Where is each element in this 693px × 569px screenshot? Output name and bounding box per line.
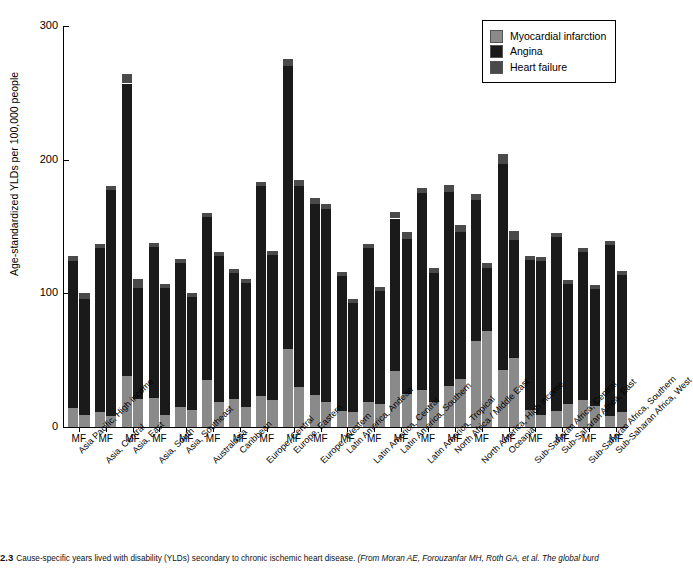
y-axis-label: Age-standardized YLDs per 100,000 people <box>8 76 20 276</box>
x-tick-mark <box>213 427 214 432</box>
bar-segment-angina <box>267 255 277 401</box>
bar-segment-angina <box>175 263 185 407</box>
bar-segment-angina <box>337 276 347 411</box>
x-tick-label-mf: MF <box>144 434 174 444</box>
bar-segment-heart-failure <box>605 241 615 245</box>
x-tick-mark <box>106 427 107 432</box>
x-axis-line <box>63 427 628 428</box>
bar-male <box>417 188 427 427</box>
bar-segment-heart-failure <box>390 212 400 219</box>
bar-segment-angina <box>187 297 197 409</box>
bar-segment-heart-failure <box>106 186 116 190</box>
bar-segment-heart-failure <box>617 271 627 275</box>
y-tick-label: 300 <box>18 20 58 31</box>
bar-group <box>337 26 359 427</box>
bar-segment-angina <box>375 291 385 405</box>
bar-segment-angina <box>348 303 358 413</box>
bar-female <box>106 186 116 427</box>
bar-segment-myocardial-infarction <box>68 408 78 427</box>
bar-group <box>417 26 439 427</box>
bar-group <box>578 26 600 427</box>
x-tick-mark <box>428 427 429 432</box>
bar-male <box>363 244 373 427</box>
y-tick-label: 100 <box>18 287 58 298</box>
x-tick-label-mf: MF <box>91 434 121 444</box>
x-tick-mark <box>186 427 187 432</box>
x-tick-mark <box>509 427 510 432</box>
x-tick-mark <box>401 427 402 432</box>
bar-segment-heart-failure <box>79 293 89 298</box>
bar-segment-heart-failure <box>563 280 573 284</box>
bar-segment-myocardial-infarction <box>536 415 546 427</box>
bar-segment-heart-failure <box>321 204 331 209</box>
x-tick-mark <box>482 427 483 432</box>
bar-segment-angina <box>482 268 492 331</box>
bar-segment-heart-failure <box>310 198 320 203</box>
bar-segment-heart-failure <box>256 182 266 186</box>
x-tick-mark <box>267 427 268 432</box>
figure-caption: 2.3Cause-specific years lived with disab… <box>0 552 660 564</box>
x-tick-label-mf: MF <box>359 434 389 444</box>
bar-segment-angina <box>160 288 170 415</box>
bar-segment-heart-failure <box>68 256 78 261</box>
bar-segment-angina <box>590 289 600 405</box>
bar-female <box>160 284 170 427</box>
bar-male <box>444 185 454 427</box>
y-tick-label: 200 <box>18 154 58 165</box>
bar-segment-heart-failure <box>160 284 170 288</box>
x-tick-mark <box>589 427 590 432</box>
bar-segment-angina <box>578 252 588 400</box>
bar-group <box>390 26 412 427</box>
bar-segment-heart-failure <box>214 252 224 256</box>
bar-segment-heart-failure <box>471 194 481 199</box>
x-tick-label-mf: MF <box>198 434 228 444</box>
x-tick-mark <box>347 427 348 432</box>
bar-segment-heart-failure <box>348 299 358 303</box>
x-tick-mark <box>535 427 536 432</box>
bar-segment-angina <box>229 273 239 399</box>
bar-segment-heart-failure <box>551 233 561 237</box>
bar-segment-heart-failure <box>122 74 132 83</box>
bar-segment-heart-failure <box>241 279 251 283</box>
bar-segment-angina <box>241 283 251 407</box>
bar-male <box>95 244 105 427</box>
bar-segment-heart-failure <box>267 251 277 255</box>
bar-male <box>525 256 535 427</box>
bar-group <box>444 26 466 427</box>
bar-male <box>229 269 239 427</box>
bar-male <box>310 198 320 427</box>
bar-group <box>551 26 573 427</box>
x-tick-label-mf: MF <box>413 434 443 444</box>
bar-group <box>175 26 197 427</box>
bar-segment-angina <box>283 66 293 349</box>
bar-segment-heart-failure <box>294 180 304 187</box>
bar-segment-heart-failure <box>149 243 159 247</box>
x-tick-label-mf: MF <box>306 434 336 444</box>
bar-female <box>133 279 143 427</box>
bar-group <box>471 26 493 427</box>
bar-segment-heart-failure <box>536 257 546 261</box>
bar-female <box>79 293 89 427</box>
bar-group <box>310 26 332 427</box>
bar-male <box>283 59 293 427</box>
bar-segment-angina <box>214 256 224 402</box>
bar-segment-angina <box>444 192 454 386</box>
bar-segment-myocardial-infarction <box>551 411 561 427</box>
bar-group <box>122 26 144 427</box>
bar-female <box>563 280 573 427</box>
bar-segment-heart-failure <box>525 256 535 260</box>
bar-segment-angina <box>429 273 439 401</box>
bar-segment-heart-failure <box>363 244 373 248</box>
bar-segment-angina <box>321 209 331 401</box>
bar-segment-heart-failure <box>590 285 600 289</box>
bar-female <box>321 204 331 427</box>
bar-male <box>122 74 132 427</box>
bar-segment-heart-failure <box>402 232 412 239</box>
x-tick-mark <box>79 427 80 432</box>
bar-female <box>241 279 251 427</box>
bar-segment-angina <box>471 200 481 342</box>
bar-segment-heart-failure <box>187 293 197 297</box>
bar-segment-angina <box>498 164 508 370</box>
bar-segment-angina <box>417 193 427 389</box>
